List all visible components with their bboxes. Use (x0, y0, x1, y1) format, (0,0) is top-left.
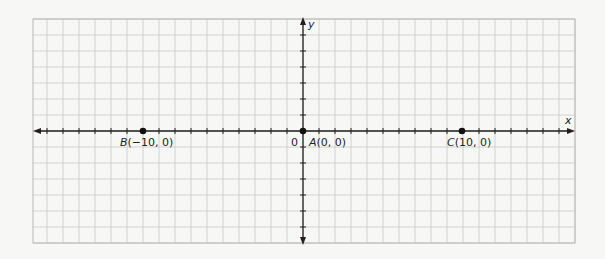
y-axis-label: y (307, 18, 315, 31)
point-b (140, 128, 147, 135)
point-b-label: B(−10, 0) (120, 136, 173, 149)
coordinate-plane: x y 0 A(0, 0) B(−10, 0) C(10, 0) (0, 0, 605, 259)
x-axis-right-arrow-icon (567, 128, 575, 134)
origin-label: 0 (291, 136, 298, 149)
point-c (459, 128, 466, 135)
y-axis-up-arrow-icon (300, 17, 306, 25)
point-a-label: A(0, 0) (308, 136, 346, 149)
y-axis-down-arrow-icon (300, 237, 306, 245)
x-axis-label: x (564, 114, 572, 127)
point-c-label: C(10, 0) (447, 136, 491, 149)
x-axis-left-arrow-icon (33, 128, 41, 134)
point-a (300, 128, 307, 135)
